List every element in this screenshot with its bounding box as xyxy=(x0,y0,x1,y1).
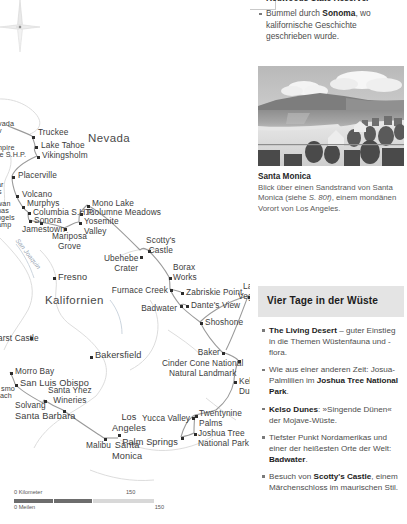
map-city-dot[interactable] xyxy=(140,256,143,259)
map-city-label-joshua-tree-np[interactable]: Joshua Tree National Park xyxy=(198,429,249,448)
list-item: Wie aus einer anderen Zeit: Josua-Palmli… xyxy=(261,364,402,397)
map-city-label-truckee[interactable]: Truckee xyxy=(38,128,68,138)
map-city-label-badwater[interactable]: Badwater xyxy=(140,304,177,314)
item-pre: Besuch von xyxy=(269,472,314,481)
infobox-desert: Vier Tage in der Wüste The Living Desert… xyxy=(258,286,404,499)
compass-rose-icon xyxy=(0,0,40,52)
map-city-label-zabriskie-point[interactable]: Zabriskie Point xyxy=(186,288,242,298)
map-edge-label: ach xyxy=(0,392,12,400)
item-pre: Tiefster Punkt Nordamerikas und einer de… xyxy=(269,433,391,453)
map-edge-label: amp xyxy=(0,221,11,229)
photo-caption: Blick über einen Sandstrand von Santa Mo… xyxy=(258,183,404,214)
photo-title: Santa Monica xyxy=(258,171,404,182)
map-city-dot[interactable] xyxy=(234,381,237,384)
map-city-dot[interactable] xyxy=(180,305,183,308)
map-city-label-santa-barbara[interactable]: Santa Barbara xyxy=(15,411,76,422)
infobox-header: Vier Tage in der Wüste xyxy=(258,286,404,317)
caption-page-ref: S. 80f) xyxy=(309,193,332,202)
scale-km-value: 150 xyxy=(126,489,135,495)
bullet-text-pre: Bummel durch xyxy=(266,8,322,18)
map-city-label-las-vegas[interactable]: Las Vegas xyxy=(238,282,250,301)
list-item: Besuch von Scotty's Castle, einem Märche… xyxy=(261,471,402,493)
map-city-label-placerville[interactable]: Placerville xyxy=(18,171,57,181)
scale-mi-label: 0 Meilen xyxy=(14,504,35,510)
map-city-label-vikingsholm[interactable]: Vikingsholm xyxy=(42,151,88,161)
map-region-label-kalifornien: Kalifornien xyxy=(45,294,104,307)
map-city-dot[interactable] xyxy=(222,352,225,355)
item-post: . xyxy=(287,387,289,396)
map-city-label-twentynine-palms[interactable]: Twentynine Palms xyxy=(199,409,242,428)
map-edge-label: s xyxy=(0,188,2,196)
map-city-dot[interactable] xyxy=(28,212,31,215)
item-post: . xyxy=(305,455,307,464)
map-city-dot[interactable] xyxy=(53,277,56,280)
infobox-title: Vier Tage in der Wüste xyxy=(267,295,378,306)
scale-mi-value: 150 xyxy=(155,504,164,510)
map-city-dot[interactable] xyxy=(37,156,40,159)
photo-block: Santa Monica Blick über einen Sandstrand… xyxy=(258,66,404,214)
item-bold-lead: The Living Desert xyxy=(269,326,337,335)
bullet-text-bold: Sonoma xyxy=(322,8,355,18)
map-edge-label: vada xyxy=(0,120,14,128)
map-city-label-ubehebe-crater[interactable]: Ubehebe Crater xyxy=(104,254,138,273)
map-city-dot[interactable] xyxy=(29,220,32,223)
map-city-dot[interactable] xyxy=(181,437,184,440)
item-bold: Badwater xyxy=(269,455,305,464)
map-city-dot[interactable] xyxy=(186,305,189,308)
map-city-dot[interactable] xyxy=(79,222,82,225)
map-city-dot[interactable] xyxy=(90,356,93,359)
map-city-label-santa-ynez-wineries[interactable]: Santa Ynez Wineries xyxy=(48,386,92,405)
map-city-dot[interactable] xyxy=(32,136,35,139)
map-edge-label: line S.H.P. xyxy=(0,151,26,159)
map-city-label-cinder-cone[interactable]: Cinder Cone National Natural Landmark xyxy=(162,359,243,378)
map-city-label-borax-works[interactable]: Borax Works xyxy=(173,263,197,282)
map-city-label-bakersfield[interactable]: Bakersfield xyxy=(95,350,142,361)
map-city-label-palm-springs[interactable]: Palm Springs xyxy=(118,437,178,448)
intro-bullet-list: Bummel durch Sonoma, wo kalifornische Ge… xyxy=(258,8,404,43)
map-city-dot[interactable] xyxy=(195,415,198,418)
item-bold: Scotty's Castle xyxy=(314,472,372,481)
map-city-label-kelso-dunes[interactable]: Kelso Dunes xyxy=(239,377,250,396)
map-city-label-scottys-castle[interactable]: Scotty's Castle xyxy=(146,236,176,255)
map-city-label-dantes-view[interactable]: Dante's View xyxy=(191,301,240,311)
map-city-dot[interactable] xyxy=(35,146,38,149)
right-column: Redwoods State Reserve. Bummel durch Son… xyxy=(250,0,407,524)
list-item: Bummel durch Sonoma, wo kalifornische Ge… xyxy=(258,8,404,43)
map-city-label-morro-bay[interactable]: Morro Bay xyxy=(15,367,54,377)
map-city-dot[interactable] xyxy=(15,384,18,387)
map-city-dot[interactable] xyxy=(200,322,203,325)
map-city-label-yucca-valley[interactable]: Yucca Valley xyxy=(142,414,189,424)
map-city-label-shoshone[interactable]: Shoshone xyxy=(205,318,243,328)
intro-bullet-block: Redwoods State Reserve. Bummel durch Son… xyxy=(258,0,404,48)
map-city-label-yosemite-valley[interactable]: Yosemite Valley xyxy=(84,217,119,236)
map-city-label-fresno[interactable]: Fresno xyxy=(58,272,87,283)
map-city-label-furnace-creek[interactable]: Furnace Creek xyxy=(110,286,168,296)
map-city-label-solvang[interactable]: Solvang xyxy=(15,401,41,411)
map-panel[interactable]: Nevada Kalifornien San Joaquin vada v np… xyxy=(0,0,250,524)
map-city-dot[interactable] xyxy=(12,176,15,179)
map-city-dot[interactable] xyxy=(170,289,173,292)
map-city-dot[interactable] xyxy=(22,206,25,209)
list-item: Kelso Dunes: »Singende Dünen« der Mojave… xyxy=(261,404,402,426)
map-edge-label: v xyxy=(0,127,2,135)
map-region-label-nevada: Nevada xyxy=(88,132,130,145)
infobox-list: The Living Desert – guter Einstieg in di… xyxy=(261,325,402,493)
intro-continuation-line: Redwoods State Reserve. xyxy=(266,0,404,4)
map-city-label-los-angeles[interactable]: Los Angeles xyxy=(112,412,146,433)
map-city-label-baker[interactable]: Baker xyxy=(196,348,220,358)
santa-monica-photo xyxy=(258,66,404,166)
map-city-label-malibu[interactable]: Malibu xyxy=(86,441,111,451)
scale-km-label: 0 Kilometer xyxy=(14,489,42,495)
page-root: Nevada Kalifornien San Joaquin vada v np… xyxy=(0,0,407,524)
map-city-dot[interactable] xyxy=(10,372,13,375)
map-city-dot[interactable] xyxy=(169,277,172,280)
list-item: Tiefster Punkt Nordamerikas und einer de… xyxy=(261,432,402,465)
scale-bar-graphic xyxy=(14,499,154,503)
map-city-dot[interactable] xyxy=(16,195,19,198)
item-bold-lead: Kelso Dunes xyxy=(269,405,318,414)
map-city-dot[interactable] xyxy=(194,433,197,436)
map-city-label-mariposa-grove[interactable]: Mariposa Grove xyxy=(52,232,87,251)
map-city-dot[interactable] xyxy=(181,292,184,295)
map-city-label-hearst-castle[interactable]: arst Castle xyxy=(0,334,39,344)
infobox-body: The Living Desert – guter Einstieg in di… xyxy=(258,317,404,493)
